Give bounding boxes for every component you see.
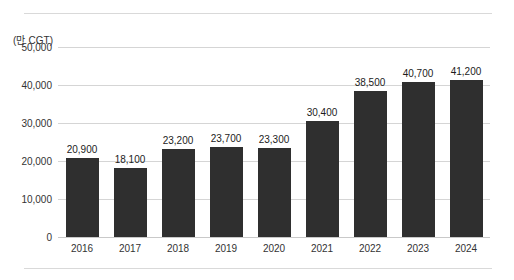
bar[interactable]	[210, 147, 243, 237]
y-axis-tick-label: 30,000	[0, 118, 52, 129]
bar[interactable]	[162, 149, 195, 237]
bar-value-label: 20,900	[52, 144, 112, 155]
bar-value-label: 18,100	[100, 154, 160, 165]
y-axis-tick-label: 40,000	[0, 80, 52, 91]
bar[interactable]	[306, 121, 339, 237]
bar-value-label: 23,300	[244, 134, 304, 145]
y-axis-tick-label: 20,000	[0, 156, 52, 167]
x-axis-tick-label: 2024	[436, 243, 496, 254]
bar[interactable]	[450, 80, 483, 237]
bar[interactable]	[354, 91, 387, 237]
bar[interactable]	[114, 168, 147, 237]
bar[interactable]	[402, 82, 435, 237]
y-axis-tick-label: 10,000	[0, 194, 52, 205]
bar[interactable]	[66, 158, 99, 237]
gridline	[58, 47, 490, 48]
x-axis-baseline	[58, 237, 490, 238]
y-axis-tick-label: 0	[0, 232, 52, 243]
plot-area: 010,00020,00030,00040,00050,000 20,90018…	[0, 0, 514, 280]
chart-figure: (만 CGT) 010,00020,00030,00040,00050,000 …	[0, 0, 514, 280]
y-axis-tick-label: 50,000	[0, 42, 52, 53]
bar-value-label: 41,200	[436, 66, 496, 77]
bar[interactable]	[258, 148, 291, 237]
bar-value-label: 30,400	[292, 107, 352, 118]
